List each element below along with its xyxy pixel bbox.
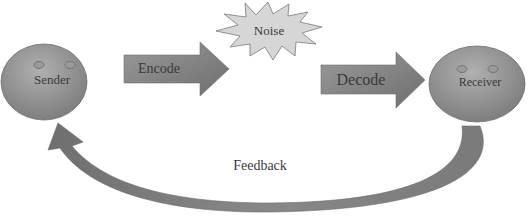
encode-label: Encode	[138, 61, 180, 76]
communication-diagram: Feedback Sender Encode Noise Decode Rece…	[0, 0, 531, 218]
feedback-label: Feedback	[233, 158, 287, 173]
sender-left-eye-icon	[34, 62, 44, 69]
sender-label: Sender	[34, 72, 71, 87]
decode-label: Decode	[337, 71, 386, 88]
receiver-label: Receiver	[459, 75, 502, 89]
noise-label: Noise	[254, 23, 285, 38]
sender-right-eye-icon	[65, 62, 75, 69]
receiver-left-eye-icon	[457, 66, 467, 73]
receiver-right-eye-icon	[488, 66, 498, 73]
